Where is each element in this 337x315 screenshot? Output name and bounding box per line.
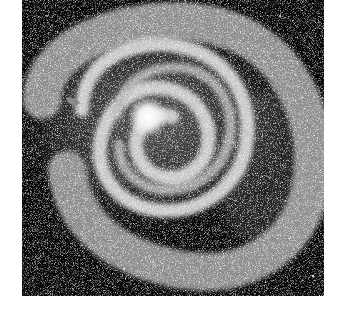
galaxy-graphic xyxy=(22,0,324,296)
star-grain xyxy=(22,0,324,296)
galaxy-image: Spiral galaxy with bright core and tight… xyxy=(22,0,324,296)
galaxy-core xyxy=(128,97,168,137)
